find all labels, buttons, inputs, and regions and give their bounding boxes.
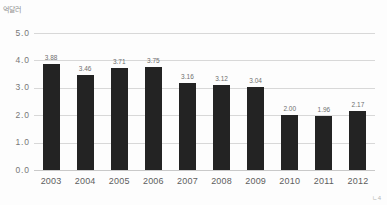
gridline [34, 60, 375, 61]
bar [247, 87, 264, 170]
bar [111, 68, 128, 170]
bar-value-label: 3.16 [170, 73, 204, 81]
corner-watermark: ㄴ4 [372, 195, 381, 202]
y-axis-tick-label: 5.0 [0, 29, 30, 38]
bar-value-label: 3.75 [136, 57, 170, 65]
x-axis-tick-label: 2007 [170, 176, 204, 186]
plot-area [34, 33, 375, 170]
x-axis-tick-label: 2003 [34, 176, 68, 186]
x-axis-tick-label: 2004 [68, 176, 102, 186]
bar [281, 115, 298, 170]
x-axis-tick-label: 2009 [239, 176, 273, 186]
bar [43, 64, 60, 170]
x-axis-tick-label: 2010 [273, 176, 307, 186]
bar-value-label: 2.17 [341, 101, 375, 109]
bar-value-label: 2.00 [273, 105, 307, 113]
y-axis-tick-label: 4.0 [0, 56, 30, 65]
x-axis-tick-label: 2006 [136, 176, 170, 186]
y-axis-tick-label: 2.0 [0, 111, 30, 120]
bar [145, 67, 162, 170]
bar-value-label: 3.88 [34, 54, 68, 62]
bar-value-label: 3.71 [102, 58, 136, 66]
gridline [34, 170, 375, 171]
x-axis-tick-label: 2008 [205, 176, 239, 186]
bar-value-label: 3.46 [68, 65, 102, 73]
y-axis-tick-label: 1.0 [0, 138, 30, 147]
y-axis-tick-label: 3.0 [0, 83, 30, 92]
bar-chart: 억달러 ㄴ4 5.04.03.02.01.00.03.8820033.46200… [0, 0, 387, 205]
bar [179, 83, 196, 170]
bar [315, 116, 332, 170]
bar-value-label: 1.96 [307, 106, 341, 114]
bar [213, 85, 230, 170]
x-axis-tick-label: 2012 [341, 176, 375, 186]
gridline [34, 33, 375, 34]
bar [77, 75, 94, 170]
bar-value-label: 3.12 [205, 75, 239, 83]
x-axis-tick-label: 2005 [102, 176, 136, 186]
x-axis-tick-label: 2011 [307, 176, 341, 186]
y-axis-tick-label: 0.0 [0, 166, 30, 175]
bar-value-label: 3.04 [239, 77, 273, 85]
bar [349, 111, 366, 170]
y-axis-title: 억달러 [3, 5, 21, 15]
